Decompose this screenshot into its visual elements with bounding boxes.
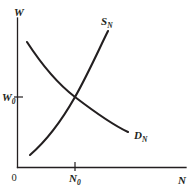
supply-curve-label-sub: N [106, 21, 113, 30]
y-axis-tick-label-w0: W0 [2, 91, 16, 106]
demand-curve [27, 42, 128, 132]
demand-curve-label-sub: N [141, 135, 148, 144]
origin-label: 0 [11, 172, 16, 183]
chart-figure: W N 0 W0 N0 SN DN [0, 0, 193, 192]
y-axis-tick-label-w0-sub: 0 [12, 97, 16, 106]
supply-demand-chart: W N 0 W0 N0 SN DN [0, 0, 193, 192]
x-axis-tick-label-n0-sub: 0 [77, 178, 81, 187]
y-axis-label: W [14, 6, 25, 18]
x-axis-label: N [177, 174, 187, 186]
supply-curve-label: SN [101, 15, 113, 30]
x-axis-tick-label-n0: N0 [68, 172, 81, 187]
demand-curve-label: DN [133, 129, 148, 144]
demand-curve-label-main: D [133, 129, 142, 141]
